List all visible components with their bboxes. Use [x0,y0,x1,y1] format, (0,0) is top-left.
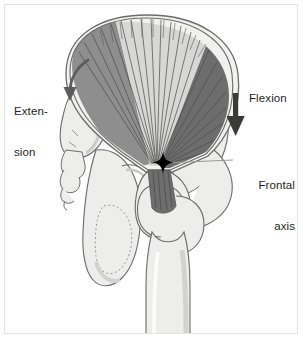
label-flexion: Flexion [249,92,287,106]
label-frontal-axis: Frontal axis [237,152,295,260]
label-extension-line2: sion [14,146,48,160]
label-frontal-axis-line1: Frontal [237,179,295,193]
label-frontal-axis-line2: axis [237,220,295,234]
anatomy-figure: Exten- sion Flexion Frontal axis [0,0,303,339]
label-extension-line1: Exten- [14,105,48,119]
label-extension: Exten- sion [14,78,48,186]
